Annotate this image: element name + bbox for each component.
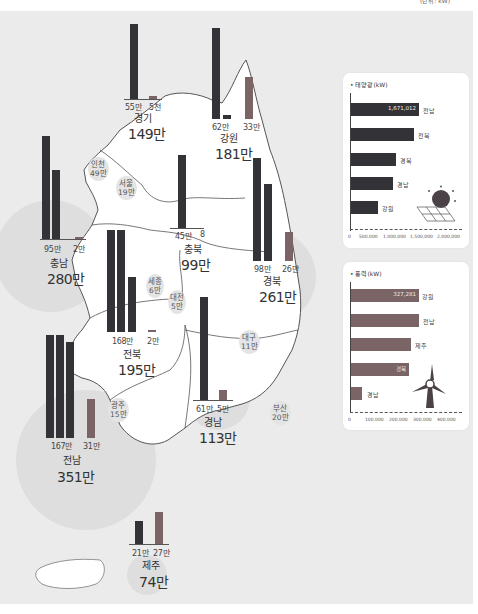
wind-turbine-icon (410, 360, 450, 410)
bar-jeonbuk-solar-2 (117, 230, 125, 332)
bottom-strip (0, 604, 478, 614)
jeonbuk-total: 195만 (118, 359, 156, 379)
city-incheon: 인천49만 (88, 157, 109, 181)
wind-bar-gyeongbuk: 경북 (351, 363, 409, 376)
bar-gyeongnam-wind (219, 390, 227, 400)
wind-tick-3: 300,000 (413, 417, 432, 422)
bar-jeju-wind (155, 512, 163, 544)
wind-tick-4: 400,000 (437, 417, 456, 422)
bar-gyeongnam-solar (200, 297, 208, 400)
wind-bar-jeonnam (351, 314, 419, 327)
bar-jeonnam-wind (87, 399, 95, 438)
gyeongnam-total: 113만 (199, 427, 237, 447)
city-daegu: 대구11만 (239, 330, 260, 354)
gyeongbuk-total: 261만 (259, 286, 297, 306)
bar-jeonnam-solar-2 (56, 335, 64, 438)
chungbuk-total: 99만 (181, 254, 210, 274)
city-sejong: 세종6만 (146, 274, 164, 298)
chungbuk-solar-label: 45만 (175, 230, 191, 241)
chungnam-solar-label: 95만 (44, 243, 60, 254)
wind-bar-gangwon: 327,281 (351, 289, 419, 302)
solar-chart-panel: • 태양광(kW) 1,671,012 전남 전북 경북 경남 강원 0 500… (343, 73, 469, 248)
bar-gangwon-wind (245, 77, 253, 119)
baseline (193, 400, 233, 401)
bar-jeonbuk-solar-3 (128, 277, 136, 332)
bar-gyeongbuk-wind (285, 232, 293, 261)
chungbuk-wind-label: 8 (200, 230, 205, 239)
baseline (40, 239, 86, 240)
wind-bar-gyeongnam (351, 387, 362, 400)
gyeongbuk-wind-label: 26만 (282, 263, 298, 274)
jeonnam-solar-label: 167만 (51, 440, 72, 451)
bar-gangwon-solar (212, 28, 220, 119)
jeonnam-wind-label: 31만 (83, 440, 99, 451)
gyeongnam-solar-label: 61만 (196, 403, 212, 414)
solar-label-jeonbuk: 전북 (418, 131, 430, 140)
solar-bar-jeonnam: 1,671,012 (351, 103, 419, 116)
x-axis (350, 412, 462, 413)
solar-tick-0: 0 (348, 234, 351, 239)
bar-chungbuk-solar (178, 155, 186, 228)
baseline (170, 228, 204, 229)
chungnam-total: 280만 (47, 268, 85, 288)
bar-jeonbuk-solar-1 (107, 230, 115, 332)
solar-tick-1: 500,000 (359, 234, 378, 239)
wind-bar-jeju (351, 338, 411, 351)
solar-bar-gyeongbuk (351, 153, 396, 166)
solar-label-jeonnam: 전남 (423, 106, 435, 115)
wind-label-jeonnam: 전남 (423, 317, 435, 326)
x-axis (350, 229, 462, 230)
solar-bar-jeonbuk (351, 128, 414, 141)
jeju-island (36, 559, 105, 588)
infographic: (단위: kW) 55만 5천 경기 149만 62만 33만 (0, 0, 478, 614)
city-seoul: 서울19만 (116, 176, 137, 200)
jeonnam-name: 전남 (63, 452, 81, 467)
wind-tick-2: 200,000 (389, 417, 408, 422)
solar-panel-icon (415, 185, 465, 225)
wind-label-gyeongnam: 경남 (367, 390, 379, 399)
solar-label-gyeongnam: 경남 (397, 180, 409, 189)
bar-chungnam-solar-2 (52, 170, 60, 239)
bar-gyeongbuk-solar-1 (253, 158, 261, 261)
bar-jeonnam-solar-1 (46, 335, 54, 438)
solar-bar-gyeongnam (351, 177, 393, 190)
jeju-total: 74만 (139, 571, 168, 591)
bar-jeju-solar (135, 521, 143, 544)
wind-tick-1: 100,000 (365, 417, 384, 422)
solar-tick-4: 2,000,000 (437, 234, 460, 239)
solar-bar-gangwon (351, 201, 378, 214)
bar-gangwon-mid (223, 115, 231, 119)
solar-tick-3: 1,500,000 (410, 234, 433, 239)
baseline (124, 99, 162, 100)
wind-chart-panel: • 풍력(kW) 327,281 강원 전남 제주 경북 경남 0 100,00… (343, 262, 469, 430)
jeonbuk-solar-label: 168만 (112, 335, 133, 346)
jeju-name: 제주 (142, 557, 160, 572)
wind-label-jeju: 제주 (415, 341, 427, 350)
jeonnam-total: 351만 (57, 466, 95, 486)
wind-tick-0: 0 (348, 417, 351, 422)
bar-chungnam-solar-1 (42, 136, 50, 239)
solar-label-gyeongbuk: 경북 (400, 156, 412, 165)
solar-label-gangwon: 강원 (382, 204, 394, 213)
solar-tick-2: 1,000,000 (383, 234, 406, 239)
city-daejeon: 대전5만 (168, 290, 186, 314)
gyeonggi-total: 149만 (128, 123, 166, 143)
jeonbuk-wind-label: 2만 (147, 335, 159, 346)
gyeongnam-wind-label: 5만 (217, 403, 229, 414)
bar-gyeonggi-solar (130, 24, 138, 99)
city-gwangju: 광주15만 (108, 398, 129, 422)
city-busan: 부산20만 (270, 401, 291, 425)
solar-chart-title: • 태양광(kW) (350, 80, 388, 89)
wind-chart-title: • 풍력(kW) (350, 269, 382, 278)
bar-jeonbuk-wind (148, 330, 156, 332)
bar-jeonnam-solar-3 (66, 342, 74, 438)
baseline (129, 544, 169, 545)
gangwon-wind-label: 33만 (243, 121, 259, 132)
bar-gyeongbuk-solar-2 (264, 184, 272, 261)
gangwon-total: 181만 (215, 143, 253, 163)
chungnam-wind-label: 2만 (73, 243, 85, 254)
wind-label-gangwon: 강원 (422, 292, 434, 301)
